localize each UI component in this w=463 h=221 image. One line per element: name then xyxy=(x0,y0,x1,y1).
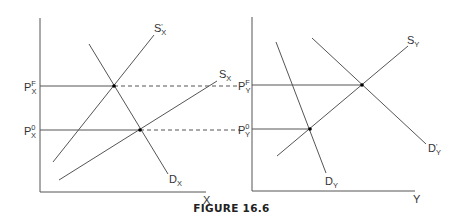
label-dx: DX xyxy=(169,173,182,188)
equilibrium-point-right-0 xyxy=(308,127,312,131)
left-panel xyxy=(40,18,240,192)
label-dy-prime: D'Y xyxy=(428,142,441,157)
label-pxf: PFX xyxy=(24,79,36,96)
figure-diagram: PFX P0X S'X SX DX X PFY P0Y SY DY D'Y Y xyxy=(0,0,463,221)
supply-curve-sx-prime xyxy=(53,35,154,162)
label-pyf: PFY xyxy=(238,78,250,95)
label-px0: P0X xyxy=(24,123,36,140)
label-dy: DY xyxy=(325,175,338,190)
equilibrium-point-left-0 xyxy=(138,128,142,132)
demand-curve-dy-prime xyxy=(312,38,426,144)
figure-caption: FIGURE 16.6 xyxy=(0,202,463,214)
right-panel xyxy=(252,17,426,191)
equilibrium-point-right-f xyxy=(360,83,364,87)
label-sx: SX xyxy=(219,68,231,83)
label-py0: P0Y xyxy=(238,122,250,139)
equilibrium-point-left-f xyxy=(112,84,116,88)
demand-curve-dx xyxy=(89,44,168,174)
label-sx-prime: S'X xyxy=(154,22,166,37)
label-sy: SY xyxy=(407,34,419,49)
supply-curve-sy xyxy=(277,46,408,156)
demand-curve-dy xyxy=(276,42,326,173)
